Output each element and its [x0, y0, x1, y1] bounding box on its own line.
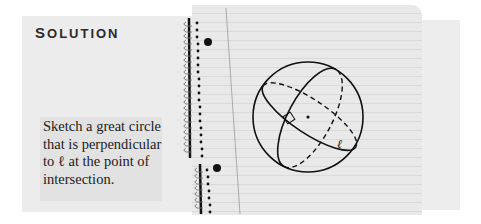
margin-line	[226, 8, 240, 214]
great-circle-perpendicular	[265, 59, 355, 177]
spiral-binding-bottom-icon	[195, 164, 211, 214]
center-point	[306, 115, 309, 118]
spiral-binding-top-icon	[184, 18, 203, 158]
line-label: ℓ	[337, 137, 342, 151]
notebook-figure: ℓ	[0, 0, 481, 224]
hole-punch-icon	[213, 164, 221, 172]
hole-punch-icon	[204, 38, 212, 46]
